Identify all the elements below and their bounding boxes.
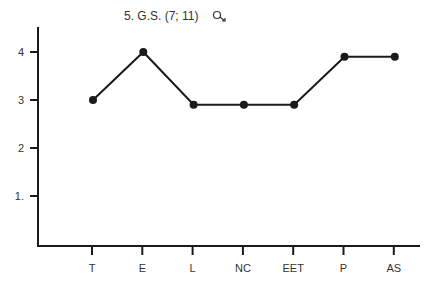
- y-tick-label: 2: [18, 142, 24, 154]
- series-line: [93, 52, 395, 105]
- male-symbol-icon: [214, 12, 226, 22]
- data-point: [190, 101, 198, 109]
- data-point: [240, 101, 248, 109]
- y-tick-label: 3: [18, 94, 24, 106]
- chart-title: 5. G.S. (7; 11): [124, 9, 198, 23]
- x-tick-label: EET: [282, 262, 304, 274]
- series-group: [89, 48, 399, 109]
- data-point: [89, 96, 97, 104]
- y-tick-label: 4: [18, 46, 24, 58]
- x-tick-label: AS: [386, 262, 401, 274]
- x-axis-ticks: TELNCEETPAS: [89, 246, 402, 274]
- x-tick-label: L: [190, 262, 196, 274]
- x-tick-label: NC: [235, 262, 251, 274]
- y-axis-ticks: 1.234: [15, 46, 38, 202]
- data-point: [290, 101, 298, 109]
- x-tick-label: P: [340, 262, 347, 274]
- axes: [37, 27, 420, 246]
- line-chart: 5. G.S. (7; 11) 1.234 TELNCEETPAS: [0, 0, 440, 288]
- y-tick-label: 1.: [15, 190, 24, 202]
- data-point: [391, 53, 399, 61]
- x-tick-label: T: [89, 262, 96, 274]
- data-point: [139, 48, 147, 56]
- data-point: [341, 53, 349, 61]
- x-tick-label: E: [139, 262, 146, 274]
